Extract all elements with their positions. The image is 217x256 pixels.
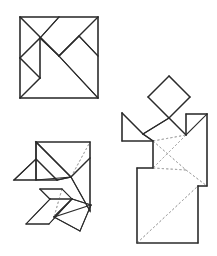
tangram-canvas (0, 0, 217, 256)
figure-tangram-dancer (122, 76, 207, 243)
figure-tangram-bird (14, 142, 91, 231)
tangram-illustration (0, 0, 217, 256)
dancer-face-head (148, 76, 190, 118)
